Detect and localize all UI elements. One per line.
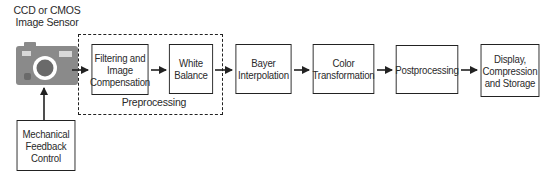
connector-arrows	[0, 0, 551, 178]
